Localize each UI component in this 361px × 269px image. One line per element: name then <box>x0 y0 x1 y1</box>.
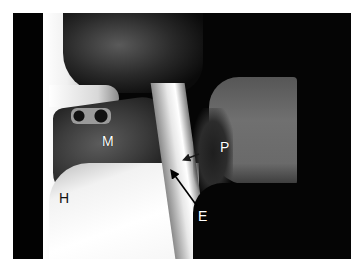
pharynx-arrow-icon <box>186 154 199 159</box>
label-m: M <box>102 134 114 148</box>
label-p: P <box>220 140 229 154</box>
label-h: H <box>59 191 69 205</box>
label-e: E <box>198 209 207 223</box>
epiglottis-arrow-icon <box>173 173 197 206</box>
annotation-arrows <box>0 0 361 269</box>
